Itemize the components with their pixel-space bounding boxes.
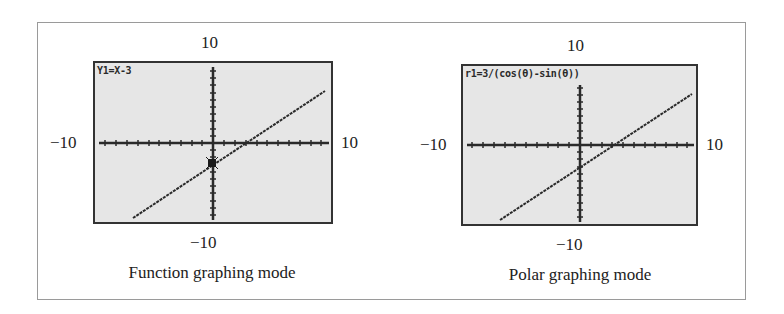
panel2-xmax-label: 10 (706, 136, 723, 153)
panel1-caption: Function graphing mode (106, 264, 318, 281)
panel1-xmin-label: −10 (50, 134, 77, 151)
panel2-plot-line (500, 94, 692, 220)
panel1-formula: Y1=X-3 (97, 65, 131, 76)
panel1-plot-line (133, 91, 325, 218)
panel2-formula: r1=3/(cos(θ)-sin(θ)) (465, 68, 579, 79)
panel2-calculator-screen: r1=3/(cos(θ)-sin(θ)) (461, 64, 698, 226)
panel1-calculator-screen: Y1=X-3 (93, 61, 333, 224)
panel1-xmax-label: 10 (341, 134, 358, 151)
panel1-graph (95, 63, 333, 224)
panel2-caption: Polar graphing mode (480, 266, 680, 283)
panel1-ymin-label: −10 (190, 234, 217, 251)
panel1-ymax-label: 10 (201, 34, 218, 51)
panel2-ymax-label: 10 (567, 37, 584, 54)
panel2-xmin-label: −10 (420, 136, 447, 153)
panel2-ymin-label: −10 (556, 236, 583, 253)
panel2-graph (463, 66, 698, 226)
